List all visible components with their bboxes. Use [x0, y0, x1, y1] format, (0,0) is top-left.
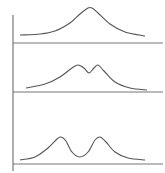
peak-curve	[26, 65, 147, 90]
peak-curve	[20, 137, 145, 160]
panel-resolved-doublet	[13, 137, 163, 164]
panel-partially-resolved-doublet	[13, 65, 163, 92]
panels-group	[13, 7, 163, 164]
panel-single-peak	[13, 7, 163, 43]
peak-resolution-diagram	[0, 0, 165, 173]
peak-curve	[20, 7, 145, 36]
diagram-canvas	[0, 0, 165, 173]
